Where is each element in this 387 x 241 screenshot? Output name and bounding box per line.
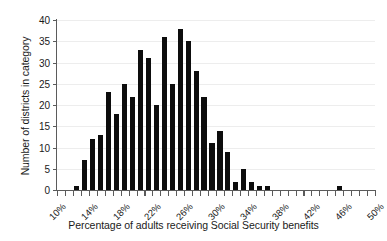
y-tick-label: 10 [39, 142, 50, 153]
y-tick-mark [53, 148, 57, 149]
x-tick-mark [319, 191, 320, 196]
y-tick-mark [53, 20, 57, 21]
gridline [57, 105, 375, 106]
y-tick-mark [53, 105, 57, 106]
histogram-bar [201, 97, 206, 191]
x-tick-mark [296, 191, 297, 196]
x-tick-mark [137, 191, 138, 196]
histogram-bar [154, 105, 159, 190]
x-tick-mark [327, 191, 328, 196]
histogram-bar [241, 169, 246, 190]
gridline [57, 41, 375, 42]
histogram-bar [217, 131, 222, 191]
y-tick-mark [53, 41, 57, 42]
y-tick-mark [53, 169, 57, 170]
histogram-bar [170, 84, 175, 190]
x-tick-mark [57, 191, 58, 196]
y-tick-mark [53, 84, 57, 85]
x-tick-mark [144, 191, 145, 196]
histogram-bar [194, 71, 199, 190]
x-tick-mark [121, 191, 122, 196]
x-tick-mark [89, 191, 90, 196]
gridline [57, 169, 375, 170]
gridline [57, 126, 375, 127]
x-tick-mark [311, 191, 312, 196]
y-tick-label: 40 [39, 15, 50, 26]
x-tick-mark [359, 191, 360, 196]
x-tick-mark [375, 191, 376, 196]
histogram-bar [138, 50, 143, 190]
x-tick-mark [224, 191, 225, 196]
x-tick-mark [113, 191, 114, 196]
histogram-bar [146, 58, 151, 190]
x-tick-mark [160, 191, 161, 196]
histogram-bar [265, 186, 270, 190]
histogram-bar [90, 139, 95, 190]
y-tick-label: 0 [44, 185, 50, 196]
y-tick-label: 5 [44, 163, 50, 174]
x-tick-mark [200, 191, 201, 196]
histogram-bar [233, 182, 238, 191]
x-tick-mark [216, 191, 217, 196]
x-tick-mark [288, 191, 289, 196]
x-tick-mark [105, 191, 106, 196]
histogram-bar [98, 135, 103, 190]
x-tick-mark [97, 191, 98, 196]
x-tick-mark [192, 191, 193, 196]
histogram-bar [130, 97, 135, 191]
x-tick-mark [240, 191, 241, 196]
x-tick-mark [73, 191, 74, 196]
histogram-bar [257, 186, 262, 190]
y-tick-label: 35 [39, 36, 50, 47]
y-tick-mark [53, 63, 57, 64]
histogram-bar [186, 41, 191, 190]
histogram-bar [122, 84, 127, 190]
histogram-bar [114, 114, 119, 191]
x-tick-mark [272, 191, 273, 196]
x-tick-mark [264, 191, 265, 196]
x-tick-mark [152, 191, 153, 196]
histogram-bar [162, 37, 167, 190]
x-tick-mark [367, 191, 368, 196]
x-tick-mark [256, 191, 257, 196]
histogram-bar [225, 152, 230, 190]
x-tick-mark [351, 191, 352, 196]
x-tick-mark [248, 191, 249, 196]
y-tick-label: 15 [39, 121, 50, 132]
y-tick-label: 20 [39, 100, 50, 111]
y-axis-title: Number of districts in category [19, 11, 31, 201]
x-axis-title: Percentage of adults receiving Social Se… [0, 219, 387, 231]
x-tick-mark [184, 191, 185, 196]
gridline [57, 84, 375, 85]
x-tick-mark [176, 191, 177, 196]
gridline [57, 63, 375, 64]
x-tick-mark [280, 191, 281, 196]
x-tick-mark [303, 191, 304, 196]
histogram-bar [82, 160, 87, 190]
histogram-bar [178, 29, 183, 191]
x-tick-mark [343, 191, 344, 196]
x-tick-mark [168, 191, 169, 196]
x-tick-mark [129, 191, 130, 196]
plot-area: 0510152025303540 10%14%18%22%26%30%34%38… [57, 20, 375, 190]
histogram-bar [209, 143, 214, 190]
gridline [57, 148, 375, 149]
y-tick-label: 25 [39, 78, 50, 89]
histogram-bar [106, 92, 111, 190]
histogram-bar [74, 186, 79, 190]
y-tick-label: 30 [39, 57, 50, 68]
x-tick-mark [65, 191, 66, 196]
gridline [57, 20, 375, 21]
histogram-figure: Number of districts in category 05101520… [0, 0, 387, 241]
x-tick-mark [81, 191, 82, 196]
histogram-bar [337, 186, 342, 190]
x-tick-mark [232, 191, 233, 196]
y-tick-mark [53, 126, 57, 127]
x-tick-mark [335, 191, 336, 196]
histogram-bar [249, 182, 254, 191]
x-tick-mark [208, 191, 209, 196]
